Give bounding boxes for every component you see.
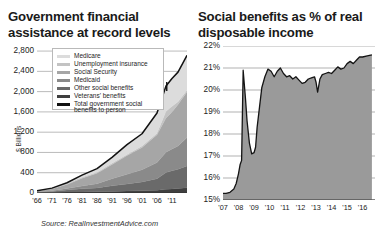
y-tick-label: 400 <box>0 168 34 177</box>
legend-item: Unemployment insurance <box>57 60 159 68</box>
y-tick-label: 20% <box>190 85 220 94</box>
legend-item: Social Security <box>57 68 159 76</box>
legend-swatch <box>57 79 70 82</box>
legend-label: Social Security <box>74 68 117 76</box>
legend-label: Medicare <box>74 52 101 60</box>
y-tick-label: 2,400 <box>0 66 34 75</box>
legend-label: Medicaid <box>74 76 100 84</box>
panel-divider <box>189 6 190 211</box>
y-tick-label: 17% <box>190 151 220 160</box>
left-chart-title: Government financial assistance at recor… <box>8 9 186 40</box>
legend-swatch <box>57 55 70 58</box>
dual-chart-figure: Government financial assistance at recor… <box>0 0 381 237</box>
y-tick-label: 22% <box>190 41 220 50</box>
source-note: Source: RealInvestmentAdvice.com <box>41 219 158 228</box>
y-tick-label: 1,600 <box>0 107 34 116</box>
right-plot-area <box>223 46 375 200</box>
y-tick-label: 2,000 <box>0 87 34 96</box>
y-tick-label: 800 <box>0 147 34 156</box>
left-chart-legend: MedicareUnemployment insuranceSocial Sec… <box>52 48 164 110</box>
legend-swatch <box>57 87 70 90</box>
legend-item: Medicare <box>57 52 159 60</box>
area-fill <box>223 55 372 200</box>
y-tick-label: 2,800 <box>0 46 34 55</box>
x-tick-label: '11 <box>162 196 182 205</box>
legend-item: Total government social benefits to pers… <box>57 101 159 115</box>
right-chart-panel: Social benefits as % of real disposable … <box>190 0 381 237</box>
legend-swatch <box>57 95 70 98</box>
left-chart-panel: Government financial assistance at recor… <box>0 0 190 237</box>
legend-item: Other social benefits <box>57 84 159 92</box>
legend-swatch <box>57 71 70 74</box>
y-tick-label: 21% <box>190 63 220 72</box>
legend-label: Unemployment insurance <box>74 60 148 68</box>
y-tick-label: 16% <box>190 173 220 182</box>
y-tick-label: 19% <box>190 107 220 116</box>
legend-label: Total government social benefits to pers… <box>74 101 159 115</box>
legend-swatch <box>57 63 70 66</box>
y-tick-label: 18% <box>190 129 220 138</box>
right-chart-title: Social benefits as % of real disposable … <box>198 9 378 40</box>
legend-label: Other social benefits <box>74 84 133 92</box>
legend-swatch <box>57 103 70 106</box>
x-tick-label: '16 <box>354 203 372 212</box>
y-tick-label: 1,200 <box>0 127 34 136</box>
legend-item: Medicaid <box>57 76 159 84</box>
